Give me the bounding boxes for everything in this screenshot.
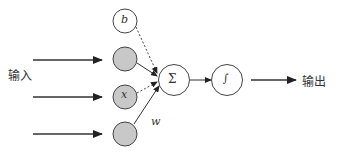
- x-connection: [137, 82, 157, 93]
- input-node-3: [113, 122, 137, 146]
- x-label: x: [121, 88, 127, 101]
- activation-symbol: ∫: [223, 72, 229, 85]
- bias-label: b: [121, 13, 128, 26]
- input-node-1: [113, 47, 137, 71]
- output-label: 输出: [302, 72, 326, 89]
- input-label: 输入: [8, 66, 32, 83]
- weight-label: w: [151, 115, 160, 128]
- sum-symbol: Σ: [168, 72, 176, 86]
- bias-connection: [136, 27, 157, 73]
- input1-connection: [137, 63, 157, 76]
